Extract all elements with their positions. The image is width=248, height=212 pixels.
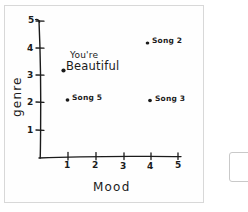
marker-song-3 <box>148 99 152 102</box>
marker-song-2 <box>146 41 150 44</box>
y-axis-line <box>39 21 41 158</box>
y-tick-label-3: 3 <box>27 70 33 80</box>
marker-song-5 <box>66 98 70 101</box>
y-tick-label-2: 2 <box>27 97 33 107</box>
y-tick-label-1: 1 <box>27 125 33 135</box>
x-tick-label-1: 1 <box>64 160 70 170</box>
screenshot-root: 1 2 3 4 5 1 2 3 4 5 Mood genre You're Be… <box>0 0 248 212</box>
point-label-line2: Beautiful <box>66 61 119 72</box>
x-tick-label-2: 2 <box>92 160 98 170</box>
point-label-song-5: Song 5 <box>72 93 102 102</box>
point-label-youre-beautiful: You're Beautiful <box>66 50 119 72</box>
point-label-song-3: Song 3 <box>155 94 185 103</box>
y-tick-label-4: 4 <box>27 43 33 53</box>
point-label-song-2: Song 2 <box>152 36 182 45</box>
x-axis-line <box>39 156 181 158</box>
x-tick-label-4: 4 <box>147 161 153 171</box>
marker-youre-beautiful <box>61 69 65 73</box>
y-axis-title: genre <box>10 76 24 117</box>
x-tick-label-5: 5 <box>175 160 181 170</box>
x-tick-label-3: 3 <box>120 161 126 171</box>
x-axis-title: Mood <box>93 180 130 194</box>
y-tick-label-5: 5 <box>28 15 34 25</box>
